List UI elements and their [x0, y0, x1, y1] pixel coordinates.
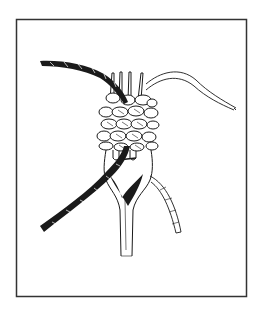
light-yarn-strand-lower — [150, 176, 181, 233]
light-yarn-strand-upper — [146, 72, 236, 110]
yarn-knots — [97, 93, 159, 151]
fork-weaving-illustration — [0, 0, 258, 322]
fork-shading — [110, 174, 143, 206]
